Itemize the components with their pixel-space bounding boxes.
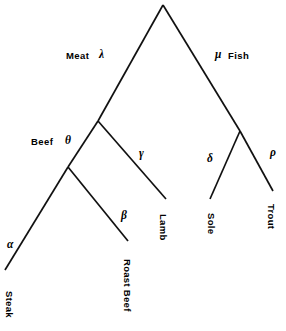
- leaf-label-lamb: Lamb: [158, 214, 169, 241]
- node-label-meat: Meat: [66, 50, 89, 61]
- edge-beef-roast: [68, 167, 128, 241]
- edge-root-meat: [98, 5, 163, 121]
- edge-label-alpha: α: [7, 238, 13, 250]
- node-label-beef: Beef: [31, 136, 53, 147]
- node-label-fish: Fish: [228, 50, 249, 61]
- edge-fish-sole: [210, 131, 240, 199]
- edge-label-beta: β: [121, 209, 127, 221]
- phylogenetic-tree-diagram: Meat λ μ Fish Beef θ γ β α δ ρ Steak Roa…: [0, 0, 286, 331]
- edge-beef-steak: [5, 167, 68, 270]
- leaf-label-roast-beef: Roast Beef: [122, 259, 133, 312]
- edge-meat-beef: [68, 121, 98, 167]
- edge-label-gamma: γ: [139, 147, 144, 159]
- edge-fish-trout: [240, 131, 273, 191]
- edge-label-rho: ρ: [270, 146, 276, 158]
- leaf-label-sole: Sole: [206, 213, 217, 234]
- edge-label-theta: θ: [65, 134, 71, 146]
- edge-label-lambda: λ: [99, 48, 104, 60]
- edge-label-delta: δ: [207, 152, 213, 164]
- edge-root-fish: [163, 5, 240, 131]
- leaf-label-trout: Trout: [266, 204, 277, 229]
- edge-meat-lamb: [98, 121, 166, 199]
- edge-label-mu: μ: [215, 48, 221, 60]
- leaf-label-steak: Steak: [4, 291, 15, 318]
